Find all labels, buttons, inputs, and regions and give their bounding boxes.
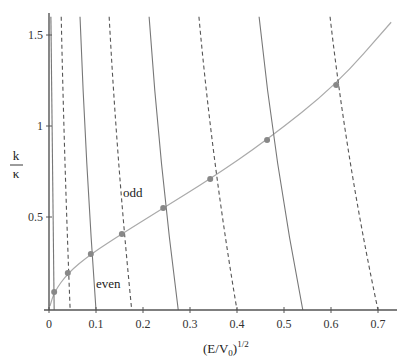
curve-even-n-2 xyxy=(80,17,96,310)
intersection-point xyxy=(333,82,339,88)
x-tick-label: 0.5 xyxy=(277,317,292,331)
annotation-even: even xyxy=(96,276,121,291)
curve-odd-n-4 xyxy=(330,17,378,310)
intersection-point xyxy=(264,137,270,143)
curve-even-n-4 xyxy=(259,17,303,310)
y-tick-label: 1 xyxy=(37,119,43,133)
x-tick-label: 0.3 xyxy=(183,317,198,331)
x-tick-label: 0.1 xyxy=(89,317,104,331)
intersection-point xyxy=(65,270,71,276)
intersection-point xyxy=(119,231,125,237)
curve-odd-n-2 xyxy=(109,17,132,310)
curve-constraint-curve xyxy=(50,22,391,306)
intersection-point xyxy=(51,289,57,295)
y-axis-label: k κ xyxy=(10,148,23,181)
plot-curves xyxy=(50,17,391,310)
intersection-point xyxy=(88,251,94,257)
curve-even-n-1 xyxy=(51,17,54,310)
x-axis-label: (E/V0)1/2 xyxy=(203,339,249,358)
curve-even-n-3 xyxy=(149,17,178,310)
intersection-point xyxy=(207,176,213,182)
x-tick-label: 0 xyxy=(46,317,52,331)
y-tick-label: 1.5 xyxy=(28,28,43,42)
x-tick-label: 0.4 xyxy=(230,317,245,331)
curve-odd-n-1 xyxy=(61,17,70,310)
y-tick-label: 0.5 xyxy=(28,210,43,224)
x-tick-label: 0.6 xyxy=(324,317,339,331)
annotation-odd: odd xyxy=(123,185,143,200)
x-tick-label: 0.7 xyxy=(371,317,386,331)
x-tick-label: 0.2 xyxy=(136,317,151,331)
curve-odd-n-3 xyxy=(199,17,237,310)
svg-text:k: k xyxy=(13,148,20,163)
intersection-point xyxy=(160,205,166,211)
svg-text:κ: κ xyxy=(13,166,20,181)
chart: 00.10.20.30.40.50.60.7 0.511.5 odd even … xyxy=(0,0,408,364)
